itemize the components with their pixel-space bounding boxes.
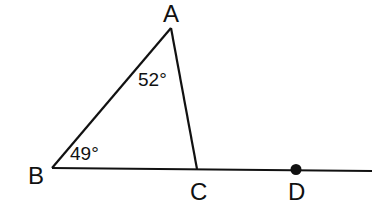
angle-b-label: 49° [70,144,99,163]
label-point-b: B [28,164,44,188]
ray-bd [52,168,372,171]
label-point-c: C [190,180,207,204]
label-point-d: D [288,180,305,204]
label-point-a: A [163,2,179,26]
geometry-diagram: A B C D 52° 49° [0,0,392,211]
segment-ac [171,28,197,169]
point-d-dot [291,164,302,175]
angle-a-label: 52° [138,70,167,89]
